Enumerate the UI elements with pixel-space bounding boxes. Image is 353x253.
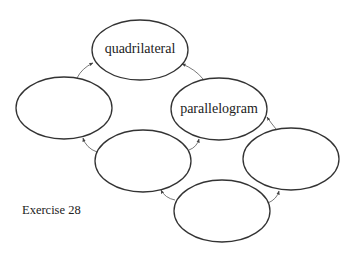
arrow-bottom-to-middle	[161, 190, 175, 200]
arrow-bottom-to-right	[268, 191, 279, 203]
arrow-left-to-quadrilateral	[77, 63, 93, 78]
arrow-parallelogram-to-quadrilateral	[182, 64, 203, 79]
node-right-blank	[243, 128, 339, 190]
arrow-right-to-parallelogram	[267, 117, 276, 129]
parallelogram-label: parallelogram	[180, 102, 258, 116]
node-bottom-blank	[174, 180, 270, 242]
node-middle-blank	[95, 130, 191, 192]
exercise-caption: Exercise 28	[22, 203, 81, 218]
node-left-blank	[16, 77, 112, 139]
arrow-middle-to-parallelogram	[189, 139, 199, 150]
quadrilateral-label: quadrilateral	[105, 42, 176, 56]
arrow-middle-to-left	[83, 138, 97, 152]
